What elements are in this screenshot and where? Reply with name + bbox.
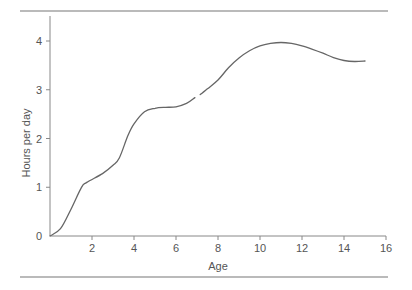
x-tick-label: 4 xyxy=(131,242,137,254)
y-axis-ticks: 01234 xyxy=(36,35,50,242)
x-tick-label: 8 xyxy=(215,242,221,254)
x-tick-label: 12 xyxy=(296,242,308,254)
y-tick-label: 2 xyxy=(36,133,42,145)
y-tick-label: 4 xyxy=(36,35,42,47)
x-axis-title: Age xyxy=(208,260,228,272)
series-line xyxy=(200,43,365,95)
x-tick-label: 14 xyxy=(338,242,350,254)
line-chart: 246810121416 01234 Age Hours per day xyxy=(0,0,412,290)
x-tick-label: 6 xyxy=(173,242,179,254)
y-tick-label: 1 xyxy=(36,181,42,193)
y-axis-title: Hours per day xyxy=(20,108,32,178)
x-axis-ticks: 246810121416 xyxy=(89,236,392,254)
series-line xyxy=(50,98,195,236)
y-tick-label: 3 xyxy=(36,84,42,96)
x-tick-label: 10 xyxy=(254,242,266,254)
x-tick-label: 2 xyxy=(89,242,95,254)
y-tick-label: 0 xyxy=(36,230,42,242)
x-tick-label: 16 xyxy=(380,242,392,254)
data-series xyxy=(50,43,365,237)
